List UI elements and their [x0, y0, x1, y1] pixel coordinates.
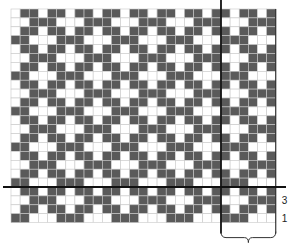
light-cell: [166, 125, 175, 134]
dark-cell: [93, 125, 102, 134]
dark-cell: [212, 125, 221, 134]
dark-cell: [139, 45, 148, 54]
dark-cell: [194, 62, 203, 71]
light-cell: [267, 71, 276, 80]
light-cell: [203, 134, 212, 143]
dark-cell: [248, 45, 257, 54]
light-cell: [175, 169, 184, 178]
light-cell: [84, 36, 93, 45]
dark-cell: [212, 18, 221, 27]
light-cell: [258, 45, 267, 54]
light-cell: [203, 62, 212, 71]
dark-cell: [184, 187, 193, 196]
dark-cell: [48, 9, 57, 18]
dark-cell: [29, 45, 38, 54]
dark-cell: [75, 107, 84, 116]
dark-cell: [212, 160, 221, 169]
light-cell: [84, 178, 93, 187]
dark-cell: [184, 205, 193, 214]
dark-cell: [267, 80, 276, 89]
light-cell: [111, 125, 120, 134]
light-cell: [121, 116, 130, 125]
dark-cell: [102, 80, 111, 89]
light-cell: [175, 134, 184, 143]
light-cell: [175, 125, 184, 134]
dark-cell: [203, 160, 212, 169]
light-cell: [258, 9, 267, 18]
light-cell: [166, 196, 175, 205]
light-cell: [57, 89, 66, 98]
light-cell: [139, 71, 148, 80]
light-cell: [11, 18, 20, 27]
dark-cell: [66, 178, 75, 187]
dark-cell: [29, 9, 38, 18]
light-cell: [121, 45, 130, 54]
light-cell: [248, 214, 257, 223]
light-cell: [175, 196, 184, 205]
dark-cell: [212, 134, 221, 143]
light-cell: [20, 125, 29, 134]
light-cell: [38, 205, 47, 214]
dark-cell: [66, 214, 75, 223]
light-cell: [66, 169, 75, 178]
light-cell: [93, 134, 102, 143]
dark-cell: [84, 134, 93, 143]
dark-cell: [139, 169, 148, 178]
light-cell: [29, 36, 38, 45]
dark-cell: [84, 80, 93, 89]
dark-cell: [38, 18, 47, 27]
dark-cell: [248, 205, 257, 214]
dark-cell: [221, 214, 230, 223]
light-cell: [38, 36, 47, 45]
dark-cell: [93, 54, 102, 63]
dark-cell: [20, 143, 29, 152]
light-cell: [267, 107, 276, 116]
dark-cell: [20, 27, 29, 36]
light-cell: [38, 107, 47, 116]
light-cell: [130, 196, 139, 205]
dark-cell: [157, 187, 166, 196]
dark-cell: [111, 71, 120, 80]
light-cell: [66, 160, 75, 169]
light-cell: [175, 18, 184, 27]
light-cell: [175, 80, 184, 89]
dark-cell: [84, 160, 93, 169]
dark-cell: [130, 214, 139, 223]
light-cell: [267, 178, 276, 187]
light-cell: [130, 89, 139, 98]
dark-cell: [166, 80, 175, 89]
light-cell: [148, 151, 157, 160]
light-cell: [29, 178, 38, 187]
light-cell: [194, 178, 203, 187]
dark-cell: [230, 107, 239, 116]
dark-cell: [84, 151, 93, 160]
light-cell: [175, 98, 184, 107]
dark-cell: [157, 196, 166, 205]
dark-cell: [20, 107, 29, 116]
light-cell: [93, 98, 102, 107]
light-cell: [57, 160, 66, 169]
dark-cell: [11, 36, 20, 45]
dark-cell: [130, 205, 139, 214]
light-cell: [203, 205, 212, 214]
dark-cell: [38, 160, 47, 169]
dark-cell: [212, 116, 221, 125]
dark-cell: [139, 80, 148, 89]
dark-cell: [84, 98, 93, 107]
dark-cell: [267, 62, 276, 71]
dark-cell: [130, 178, 139, 187]
dark-cell: [166, 71, 175, 80]
pattern-grid: [11, 9, 276, 223]
dark-cell: [212, 187, 221, 196]
dark-cell: [75, 27, 84, 36]
dark-cell: [166, 214, 175, 223]
dark-cell: [258, 54, 267, 63]
light-cell: [11, 54, 20, 63]
light-cell: [93, 151, 102, 160]
dark-cell: [239, 98, 248, 107]
light-cell: [248, 71, 257, 80]
dark-cell: [130, 45, 139, 54]
dark-cell: [212, 9, 221, 18]
light-cell: [166, 160, 175, 169]
dark-cell: [248, 160, 257, 169]
